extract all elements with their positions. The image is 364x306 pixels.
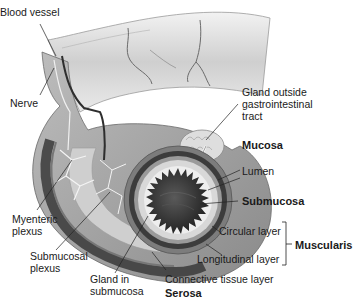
label-circular-layer: Circular layer [219, 225, 281, 237]
label-gland-in-submucosa: Gland in submucosa [90, 273, 144, 297]
label-submucosal-line2: plexus [30, 262, 88, 274]
label-lumen: Lumen [242, 165, 274, 177]
label-muscularis: Muscularis [295, 239, 352, 251]
label-connective-tissue-layer: Connective tissue layer [165, 273, 274, 285]
cross-section [124, 146, 232, 254]
muscularis-bracket [282, 222, 292, 265]
label-mucosa: Mucosa [242, 139, 283, 151]
label-longitudinal-layer: Longitudinal layer [197, 253, 279, 265]
label-myenteric-line1: Myenteric [12, 213, 58, 225]
label-submucosal-plexus: Submucosal plexus [30, 250, 88, 274]
label-nerve: Nerve [10, 97, 38, 109]
label-serosa: Serosa [165, 287, 202, 299]
label-gland-outside-line2: gastrointestinal [242, 98, 313, 110]
label-gland-outside-tract: Gland outside gastrointestinal tract [242, 86, 313, 122]
label-submucosal-line1: Submucosal [30, 250, 88, 262]
label-gland-in-line2: submucosa [90, 285, 144, 297]
label-blood-vessel: Blood vessel [0, 6, 60, 18]
label-myenteric-plexus: Myenteric plexus [12, 213, 58, 237]
label-gland-outside-line3: tract [242, 110, 313, 122]
label-submucosa: Submucosa [242, 195, 304, 207]
label-gland-outside-line1: Gland outside [242, 86, 313, 98]
label-myenteric-line2: plexus [12, 225, 58, 237]
label-gland-in-line1: Gland in [90, 273, 144, 285]
